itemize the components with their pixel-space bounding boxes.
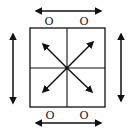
label-bottom-right: O: [79, 109, 88, 122]
arrow-up-right-icon: [67, 42, 93, 68]
label-top-left: O: [44, 15, 53, 28]
center-point: [65, 66, 68, 69]
center-diagonal-arrows: [43, 42, 93, 92]
arrow-down-right-icon: [67, 68, 92, 92]
arrow-up-left-icon: [43, 44, 67, 68]
arrow-down-left-icon: [43, 68, 67, 92]
label-top-right: O: [79, 15, 88, 28]
label-bottom-left: O: [45, 109, 54, 122]
diagram-canvas: O O O O: [0, 0, 134, 137]
